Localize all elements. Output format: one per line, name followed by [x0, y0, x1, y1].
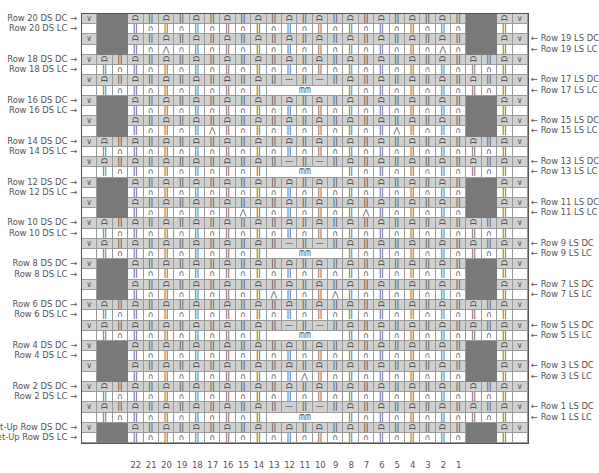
chart-cell: ᗩ	[497, 280, 512, 290]
chart-cell: ǀǀ	[220, 106, 235, 116]
chart-cell: ǀǀ	[451, 198, 466, 208]
chart-cell: ǀǀ	[497, 249, 512, 259]
chart-cell: ᗩ	[343, 55, 358, 65]
chart-cell: ∩	[328, 433, 343, 443]
chart-cell: ∩	[297, 45, 312, 55]
chart-row: ǀǀ∩ǀǀ∩ǀǀ∩ǀǀ∩ǀǀ∩ǀǀ⋀ǀǀ∩ǀǀ∩ǀǀ∩ǀǀ∩ǀǀ∩ǀǀ	[82, 372, 528, 382]
chart-cell: ᗩ	[251, 321, 266, 331]
chart-cell: ǀǀ	[436, 106, 451, 116]
chart-cell: ∩	[236, 433, 251, 443]
no-stitch-cell	[113, 198, 128, 208]
chart-cell: ∩	[236, 45, 251, 55]
chart-cell: ǀǀ	[343, 310, 358, 320]
chart-cell: ᗩ	[190, 280, 205, 290]
chart-cell: ∩	[144, 392, 159, 402]
chart-cell: ∩	[236, 147, 251, 157]
chart-cell: ǀǀ	[144, 116, 159, 126]
chart-cell	[513, 351, 528, 361]
row-label-right: ← Row 19 LS LC	[531, 44, 597, 54]
chart-cell: ∩	[113, 229, 128, 239]
chart-cell: ǀǀ	[297, 280, 312, 290]
chart-cell: ᗩ	[313, 198, 328, 208]
chart-cell: ∩	[482, 331, 497, 341]
slip-stitch-cell: ∨	[82, 382, 97, 392]
chart-cell: ᗩ	[159, 300, 174, 310]
chart-cell: ∩	[174, 269, 189, 279]
row-label-left: Row 8 DS DC →	[13, 258, 77, 268]
chart-cell: ǀǀ	[128, 290, 143, 300]
chart-cell: ǀǀ	[220, 269, 235, 279]
chart-cell: ǀǀ	[390, 14, 405, 24]
chart-cell: ᗩ	[159, 402, 174, 412]
chart-cell: ǀǀ	[205, 14, 220, 24]
chart-cell: ∩	[451, 372, 466, 382]
chart-cell: ᗩ	[374, 321, 389, 331]
chart-cell: ǀǀ	[113, 218, 128, 228]
row-label-left: Row 12 DS LC →	[9, 187, 77, 197]
slip-stitch-cell: ∨	[513, 218, 528, 228]
chart-cell: ǀǀ	[220, 208, 235, 218]
chart-cell: ᗩ	[436, 137, 451, 147]
no-stitch-cell	[466, 126, 481, 136]
chart-cell: ᗩ	[466, 75, 481, 85]
chart-cell: ᗩ	[436, 14, 451, 24]
chart-cell: ᗩ	[374, 178, 389, 188]
chart-cell: ǀǀ	[436, 24, 451, 34]
chart-cell: ǀǀ	[205, 157, 220, 167]
chart-cell: ǀǀ	[451, 218, 466, 228]
chart-cell: ∩	[451, 290, 466, 300]
chart-cell: ᗩ	[405, 321, 420, 331]
chart-cell: ǀǀ	[343, 86, 358, 96]
chart-cell: ᗩ	[251, 361, 266, 371]
chart-cell: ǀǀ	[374, 188, 389, 198]
row-label-right: ← Row 13 LS DC	[531, 156, 599, 166]
no-stitch-cell	[482, 34, 497, 44]
chart-cell: ǀǀ	[251, 188, 266, 198]
chart-cell: ∩	[451, 351, 466, 361]
chart-cell: ᗩ	[436, 280, 451, 290]
chart-cell: ᗩ	[436, 239, 451, 249]
chart-cell: ǀǀ	[251, 269, 266, 279]
chart-cell: ∩	[451, 167, 466, 177]
chart-row: ∨ᗩǀǀᗩǀǀᗩǀǀᗩǀǀᗩǀǀᗩǀǀᗩǀǀᗩǀǀᗩǀǀᗩǀǀᗩǀǀᗩ∨	[82, 178, 528, 188]
chart-cell: ǀǀ	[97, 331, 112, 341]
chart-cell: ∩	[297, 310, 312, 320]
chart-cell: ǀǀ	[113, 239, 128, 249]
chart-cell: ǀǀ	[205, 198, 220, 208]
chart-cell: ∩	[236, 65, 251, 75]
chart-cell: ǀǀ	[451, 116, 466, 126]
chart-cell: ǀǀ	[205, 321, 220, 331]
chart-row: ǀǀ∩ǀǀ∩ǀǀ∩ǀǀ∩ǀǀ∩ǀǀ∩ǀǀ∩ǀǀ∩ǀǀ∩ǀǀ∩ǀǀ∩ǀǀ	[82, 269, 528, 279]
chart-cell: ∩	[205, 229, 220, 239]
chart-cell: ∩	[451, 269, 466, 279]
chart-cell: ǀǀ	[205, 300, 220, 310]
chart-cell: ǀǀ	[128, 167, 143, 177]
chart-cell: ǀǀ	[374, 65, 389, 75]
chart-cell: ǀǀ	[420, 198, 435, 208]
chart-cell: ǀǀ	[144, 34, 159, 44]
chart-cell: ǀǀ	[436, 249, 451, 259]
chart-cell: ᗩ	[405, 14, 420, 24]
chart-cell: ǀǀ	[297, 423, 312, 433]
column-number: 19	[174, 460, 189, 470]
chart-cell: ∩	[205, 433, 220, 443]
chart-cell: ǀǀ	[451, 423, 466, 433]
chart-cell: ǀǀ	[174, 157, 189, 167]
chart-row: ∨ᗩǀǀᗩǀǀᗩǀǀᗩǀǀᗩǀǀᗩǀǀᗩǀǀᗩǀǀᗩǀǀᗩǀǀᗩǀǀᗩ∨	[82, 423, 528, 433]
chart-cell: ǀǀ	[128, 208, 143, 218]
chart-cell: ǀǀ	[144, 178, 159, 188]
no-stitch-cell	[97, 259, 112, 269]
no-stitch-cell	[482, 208, 497, 218]
chart-cell: ǀǀ	[144, 198, 159, 208]
chart-cell: ǀǀ	[405, 229, 420, 239]
no-stitch-cell	[97, 433, 112, 443]
chart-cell: ᗩ	[343, 423, 358, 433]
chart-cell: ǀǀ	[451, 280, 466, 290]
no-stitch-cell	[482, 372, 497, 382]
chart-cell: ǀǀ	[313, 290, 328, 300]
chart-cell: ∩	[420, 208, 435, 218]
chart-cell: ǀǀ	[205, 361, 220, 371]
chart-cell: ǀǀ	[174, 239, 189, 249]
chart-cell: ᗩ	[497, 137, 512, 147]
chart-cell: ᗩ	[251, 75, 266, 85]
